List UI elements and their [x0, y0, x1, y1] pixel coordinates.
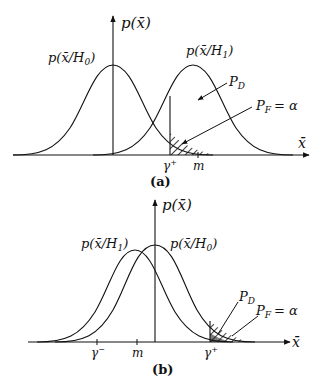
- caption-b: (b): [152, 362, 173, 377]
- pf-label-a: PF= α: [255, 98, 298, 115]
- mean-label-a: m: [193, 159, 204, 173]
- caption-a: (a): [150, 174, 171, 189]
- detection-diagram: p(x̄) x̄ p(x̄/H0) p(x̄/H1) PD PF= α γ+ m…: [0, 0, 322, 386]
- pd-label-b: PD: [238, 289, 255, 306]
- pf-pointer-b: [232, 316, 258, 336]
- x-axis-label-a: x̄: [298, 135, 306, 151]
- curve-h0-label-a: p(x̄/H0): [48, 50, 95, 67]
- pf-label-b: PF= α: [255, 303, 298, 320]
- pf-arrow-a: [182, 107, 252, 144]
- gamma-minus-label-b: γ−: [91, 345, 105, 360]
- figure-a: p(x̄) x̄ p(x̄/H0) p(x̄/H1) PD PF= α γ+ m…: [13, 14, 309, 189]
- mean-label-b: m: [132, 346, 143, 360]
- pf-hatched-region-a: [170, 133, 214, 155]
- y-axis-label-a: p(x̄): [121, 14, 151, 32]
- pd-label-a: PD: [228, 74, 245, 91]
- y-axis-label-b: p(x̄): [162, 196, 192, 214]
- curve-h1-label-a: p(x̄/H1): [186, 43, 233, 60]
- curve-h0-label-b: p(x̄/H0): [170, 236, 217, 253]
- curve-h1-label-b: p(x̄/H1): [81, 236, 128, 253]
- threshold-label-a: γ+: [163, 158, 177, 173]
- pd-pointer-b: [218, 302, 238, 334]
- gamma-plus-label-b: γ+: [204, 345, 218, 360]
- figure-b: p(x̄) x̄ p(x̄/H1) p(x̄/H0) PD PF= α γ− m…: [28, 196, 300, 377]
- pd-arrow-a: [198, 83, 227, 100]
- x-axis-label-b: x̄: [292, 334, 300, 350]
